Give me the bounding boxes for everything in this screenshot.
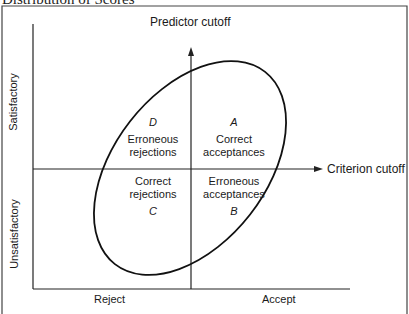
quadrant-a-line1: Correct xyxy=(196,133,272,146)
quadrant-a-line2: acceptances xyxy=(196,146,272,159)
quadrant-d-letter: D xyxy=(118,116,188,129)
x-axis-label-reject: Reject xyxy=(94,293,125,305)
quadrant-d-line2: rejections xyxy=(118,146,188,159)
y-axis-label-unsatisfactory: Unsatisfactory xyxy=(8,194,20,274)
quadrant-a: A Correct acceptances xyxy=(196,116,272,159)
quadrant-c-line1: Correct xyxy=(118,175,188,188)
criterion-arrow-icon xyxy=(314,166,323,172)
criterion-cutoff-label: Criterion cutoff xyxy=(327,162,405,176)
quadrant-c-line2: rejections xyxy=(118,188,188,201)
quadrant-c-letter: C xyxy=(118,205,188,218)
quadrant-d-line1: Erroneous xyxy=(118,133,188,146)
quadrant-b: Erroneous acceptances B xyxy=(196,175,272,218)
quadrant-d: D Erroneous rejections xyxy=(118,116,188,159)
quadrant-c: Correct rejections C xyxy=(118,175,188,218)
y-axis-label-satisfactory: Satisfactory xyxy=(7,70,19,134)
predictor-arrow-icon xyxy=(188,47,194,56)
quadrant-b-line1: Erroneous xyxy=(196,175,272,188)
score-distribution-ellipse xyxy=(55,25,325,311)
quadrant-a-letter: A xyxy=(196,116,272,129)
predictor-cutoff-label: Predictor cutoff xyxy=(150,15,230,29)
quadrant-b-letter: B xyxy=(196,205,272,218)
x-axis-label-accept: Accept xyxy=(262,293,296,305)
quadrant-b-line2: acceptances xyxy=(196,188,272,201)
outer-frame xyxy=(2,6,407,314)
